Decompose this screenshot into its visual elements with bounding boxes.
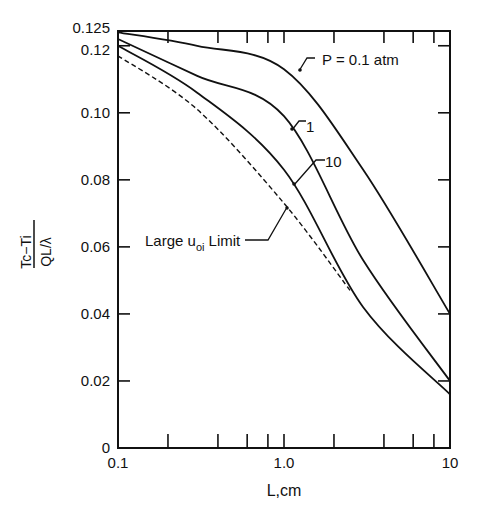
x-tick-label: 1.0 <box>274 454 295 471</box>
chart: 00.020.040.060.080.100.120.1250.11.010L,… <box>0 0 480 526</box>
leader-line <box>294 160 325 185</box>
y-tick-label: 0.02 <box>81 372 110 389</box>
annotation-large-limit: Large uoi Limit <box>145 232 241 253</box>
leader-dot <box>290 127 294 131</box>
y-tick-label: 0.06 <box>81 238 110 255</box>
annotation-p01: P = 0.1 atm <box>322 51 399 68</box>
y-tick-label: 0.125 <box>72 19 110 36</box>
leader-dot <box>292 182 296 186</box>
x-tick-label: 0.1 <box>108 454 129 471</box>
series-line <box>118 56 350 291</box>
series-line <box>118 32 450 314</box>
x-axis-title: L,cm <box>267 482 302 499</box>
series-line <box>118 39 450 381</box>
y-tick-label: 0.12 <box>81 41 110 58</box>
y-tick-label: 0.04 <box>81 305 110 322</box>
y-axis-numerator: Tc−Ti <box>18 222 34 282</box>
y-tick-label: 0.10 <box>81 104 110 121</box>
leader-dot <box>298 68 302 72</box>
series-line <box>118 46 450 395</box>
leader-line <box>245 209 286 240</box>
annotation-10: 10 <box>325 153 342 170</box>
y-axis-denominator: QL/λ <box>38 222 54 282</box>
annotation-1: 1 <box>306 118 314 135</box>
y-tick-label: 0.08 <box>81 171 110 188</box>
leader-dot <box>285 206 289 210</box>
x-tick-label: 10 <box>442 454 459 471</box>
y-axis-title: Tc−Ti QL/λ <box>20 220 60 280</box>
